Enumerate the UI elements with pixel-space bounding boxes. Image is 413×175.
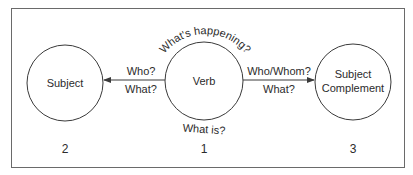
edge-verb-to-subject: Who? What? (104, 65, 165, 95)
subject-label: Subject (47, 77, 84, 89)
edge-right-label-line1: Who/Whom? (247, 65, 311, 77)
annotation-whats-happening: What's happening? (157, 24, 254, 55)
subject-complement-label-line2: Complement (322, 82, 384, 94)
subject-number: 2 (62, 142, 69, 156)
node-subject-complement: Subject Complement (315, 44, 391, 120)
edge-left-label-line2: What? (125, 83, 157, 95)
sentence-structure-diagram: Subject Verb Subject Complement Who? Wha… (0, 0, 413, 175)
annotation-whats-happening-path: What's happening? (157, 24, 254, 55)
edge-right-label-line2: What? (263, 83, 295, 95)
node-verb: Verb (165, 42, 243, 120)
verb-number: 1 (201, 142, 208, 156)
edge-verb-to-subject-complement: Who/Whom? What? (243, 65, 314, 95)
annotation-what-is: What is? (182, 122, 226, 137)
verb-label: Verb (193, 75, 216, 87)
node-subject: Subject (27, 45, 103, 121)
subject-complement-label-line1: Subject (335, 68, 372, 80)
subject-complement-number: 3 (350, 142, 357, 156)
edge-left-label-line1: Who? (127, 65, 156, 77)
